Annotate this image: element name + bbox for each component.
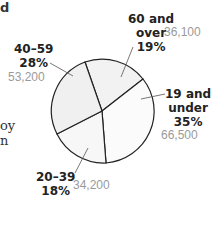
count-60-and-over: 36,100 [164,25,201,39]
pie-slices [51,59,154,163]
count-40-59: 53,200 [8,70,45,84]
label-20-39: 20–39 18% [36,170,75,198]
count-20-39: 34,200 [73,178,110,192]
label-40-59: 40–59 28% [14,42,53,70]
count-19-and-under: 66,500 [161,128,198,142]
label-19-and-under: 19 and under 35% [165,87,211,129]
